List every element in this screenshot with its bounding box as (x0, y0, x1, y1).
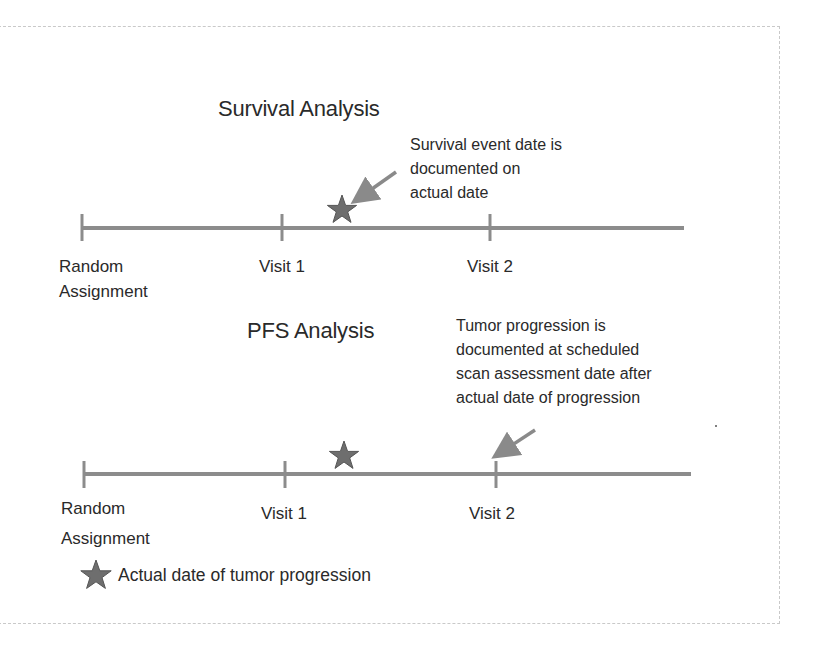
legend-label: Actual date of tumor progression (118, 563, 371, 587)
survival-label-random-assignment: Random Assignment (59, 254, 199, 304)
label-line: Random (59, 254, 199, 279)
label-line: Random (61, 494, 201, 524)
label-line: Assignment (61, 524, 201, 554)
pfs-title: PFS Analysis (247, 318, 374, 344)
pfs-label-random-assignment: Random Assignment (61, 494, 201, 554)
survival-annotation-line: documented on (410, 157, 562, 181)
label-line: Assignment (59, 279, 199, 304)
pfs-label-visit-1: Visit 1 (261, 501, 307, 526)
survival-label-visit-1: Visit 1 (259, 254, 305, 279)
survival-annotation-line: Survival event date is (410, 133, 562, 157)
pfs-annotation-line: scan assessment date after (456, 362, 652, 386)
survival-title: Survival Analysis (218, 96, 380, 122)
survival-annotation-line: actual date (410, 181, 562, 205)
pfs-annotation-line: Tumor progression is (456, 314, 652, 338)
survival-annotation: Survival event date is documented on act… (410, 133, 562, 205)
pfs-annotation: Tumor progression is documented at sched… (456, 314, 652, 410)
survival-label-visit-2: Visit 2 (467, 254, 513, 279)
pfs-annotation-line: documented at scheduled (456, 338, 652, 362)
pfs-label-visit-2: Visit 2 (469, 501, 515, 526)
pfs-annotation-line: actual date of progression (456, 386, 652, 410)
